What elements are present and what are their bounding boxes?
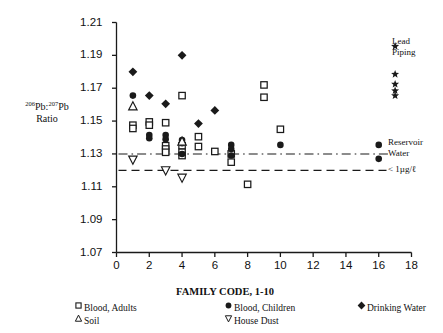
marker-open-square bbox=[195, 133, 201, 139]
marker-filled-circle bbox=[162, 136, 169, 143]
figure-chart-lead-isotope-ratio: 206Pb:207Pb Ratio Lead Piping Reservoir … bbox=[0, 0, 443, 333]
marker-filled-diamond bbox=[210, 106, 219, 115]
marker-filled-diamond bbox=[178, 51, 187, 60]
x-axis-tick-label: 2 bbox=[140, 259, 158, 271]
series-house-dust bbox=[129, 156, 187, 182]
marker-filled-diamond bbox=[128, 67, 137, 76]
x-axis-tick-label: 4 bbox=[173, 259, 191, 271]
legend-marker-filled-circle bbox=[223, 300, 234, 311]
marker-filled-circle bbox=[146, 135, 153, 142]
marker-filled-diamond bbox=[194, 119, 203, 128]
legend-item-label: Soil bbox=[84, 316, 99, 326]
x-axis-tick-label: 16 bbox=[370, 259, 388, 271]
marker-filled-circle bbox=[277, 142, 284, 149]
legend-marker-wrap bbox=[72, 313, 84, 327]
x-axis-tick-label: 18 bbox=[403, 259, 421, 271]
x-axis-tick-label: 12 bbox=[304, 259, 322, 271]
annotation-less-than-1ug: < 1µg/ℓ bbox=[388, 164, 416, 175]
marker-filled-circle bbox=[375, 142, 382, 149]
marker-filled-circle bbox=[228, 152, 235, 159]
marker-filled-circle bbox=[130, 92, 137, 99]
chart-legend: Blood, AdultsSoilBlood, ChildrenHouse Du… bbox=[72, 301, 434, 329]
legend-marker-wrap bbox=[222, 300, 234, 314]
y-axis-tick-label: 1.19 bbox=[69, 48, 103, 60]
legend-item-label: House Dust bbox=[234, 316, 279, 326]
marker-open-square bbox=[228, 159, 234, 165]
y-axis-tick-label: 1.21 bbox=[69, 16, 103, 28]
marker-open-square bbox=[261, 82, 267, 88]
marker-open-triangle-down bbox=[178, 174, 186, 182]
marker-open-square bbox=[130, 125, 136, 131]
marker-open-square bbox=[162, 120, 168, 126]
marker-filled-circle bbox=[179, 151, 186, 158]
marker-open-square bbox=[212, 148, 218, 154]
marker-open-square bbox=[162, 149, 168, 155]
annotation-reservoir-water-line1: Reservoir bbox=[388, 137, 423, 148]
annotation-less-than-1ug-text: < 1µg/ℓ bbox=[388, 164, 416, 174]
legend-marker-wrap bbox=[222, 313, 234, 327]
x-axis-tick-label: 14 bbox=[337, 259, 355, 271]
legend-marker-wrap bbox=[355, 300, 367, 314]
legend-item-label: Blood, Adults bbox=[84, 303, 137, 313]
legend-item-drinking-water[interactable]: Drinking Water bbox=[355, 301, 426, 315]
marker-filled-circle bbox=[375, 156, 382, 163]
annotation-lead-piping: Lead Piping bbox=[392, 36, 416, 57]
marker-filled-star bbox=[391, 70, 399, 78]
marker-open-square bbox=[179, 92, 185, 98]
annotation-lead-piping-line1: Lead bbox=[392, 36, 416, 47]
legend-item-label: Blood, Children bbox=[234, 303, 295, 313]
legend-item-house-dust[interactable]: House Dust bbox=[222, 314, 279, 328]
y-axis-tick-label: 1.11 bbox=[69, 180, 103, 192]
annotation-lead-piping-line2: Piping bbox=[392, 47, 416, 58]
y-axis-tick-label: 1.15 bbox=[69, 114, 103, 126]
legend-marker-wrap bbox=[72, 300, 84, 314]
y-axis-tick-label: 1.17 bbox=[69, 81, 103, 93]
series-drinking-water bbox=[128, 51, 219, 128]
x-axis-tick-label: 0 bbox=[108, 259, 126, 271]
x-axis-tick-label: 10 bbox=[271, 259, 289, 271]
y-axis-tick-label: 1.13 bbox=[69, 147, 103, 159]
marker-filled-star bbox=[391, 80, 399, 88]
series-soil bbox=[129, 102, 187, 146]
y-axis-tick-label: 1.09 bbox=[69, 213, 103, 225]
legend-item-label: Drinking Water bbox=[367, 303, 426, 313]
legend-marker-open-triangle-down bbox=[223, 313, 234, 324]
x-axis-tick-label: 8 bbox=[239, 259, 257, 271]
marker-filled-diamond bbox=[161, 99, 170, 108]
x-axis-title: FAMILY CODE, 1-10 bbox=[120, 286, 330, 297]
marker-open-square bbox=[277, 126, 283, 132]
marker-open-square bbox=[244, 181, 250, 187]
marker-open-square bbox=[195, 143, 201, 149]
marker-open-square bbox=[261, 94, 267, 100]
annotation-reservoir-water-line2: Water bbox=[388, 148, 423, 159]
legend-item-soil[interactable]: Soil bbox=[72, 314, 99, 328]
marker-open-triangle-down bbox=[129, 156, 137, 164]
legend-marker-open-triangle-up bbox=[73, 313, 84, 324]
series-blood-adults bbox=[130, 82, 284, 188]
marker-filled-diamond bbox=[145, 91, 154, 100]
marker-filled-star bbox=[391, 91, 399, 99]
marker-filled-circle bbox=[228, 146, 235, 153]
legend-marker-filled-diamond bbox=[356, 300, 367, 311]
y-axis-tick-label: 1.07 bbox=[69, 246, 103, 258]
annotation-reservoir-water: Reservoir Water bbox=[388, 137, 423, 158]
plot-area bbox=[0, 0, 443, 333]
marker-open-triangle-up bbox=[129, 102, 137, 110]
legend-marker-open-square bbox=[73, 300, 84, 311]
x-axis-tick-label: 6 bbox=[206, 259, 224, 271]
marker-open-square bbox=[146, 122, 152, 128]
